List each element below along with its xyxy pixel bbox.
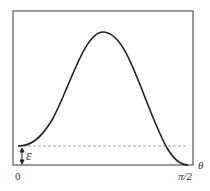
potential-curve [18,32,188,165]
x-axis-label-theta: θ [198,159,203,171]
epsilon-label: ε [26,148,32,164]
plot-frame [13,11,193,165]
x-tick-pi-half: π/2 [178,170,192,182]
epsilon-arrow-icon [20,148,24,164]
x-tick-zero: 0 [15,170,21,182]
